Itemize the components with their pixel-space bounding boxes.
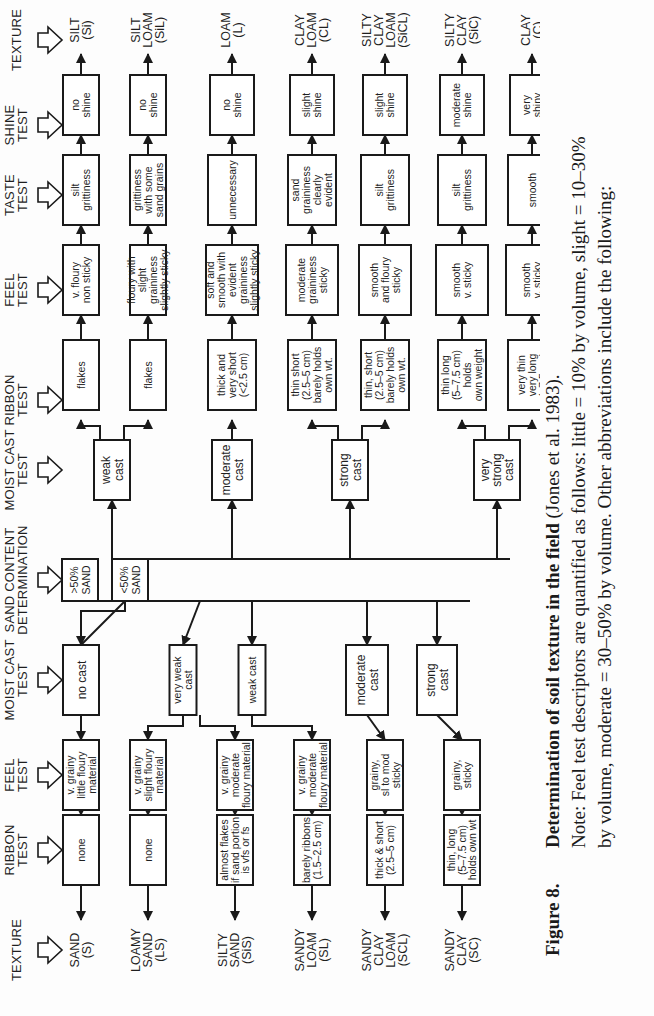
sandy-ribbon-5: thin, long(5–7.5 cm)holds own wt — [444, 815, 480, 885]
fine-ribbon-2: thick andvery short(<2.5 cm) — [208, 340, 256, 410]
fine-ribbon-2-label: thick andvery short(<2.5 cm) — [215, 352, 249, 398]
fine-texture-4: SILTYCLAYLOAM(SiCL) — [360, 12, 410, 47]
column-header-4: SAND CONTENTDETERMINATION — [2, 525, 30, 634]
flow-arrow-icon — [38, 387, 62, 413]
fine-shine-5: moderateshine — [440, 75, 484, 135]
fine-moist-cast-moderate: moderatecast — [212, 440, 252, 500]
fine-feel-0: v. flourynon sticky — [63, 245, 99, 315]
figure-title: Determination of soil texture in the fie… — [542, 523, 563, 848]
column-header-10: TEXTURE — [9, 9, 24, 71]
sandy-moist-cast-very-weak: very weakcast — [170, 645, 197, 715]
sand-lt50-box-label: <50%SAND — [118, 565, 142, 595]
sand-lt50-box: <50%SAND — [112, 559, 148, 601]
fine-moist-cast-very-strong: verystrongcast — [474, 440, 520, 500]
fine-taste-0: siltgrittiness — [63, 155, 99, 225]
flow-arrow-icon — [38, 762, 62, 788]
fine-texture-5: SILTYCLAY(SiC) — [443, 12, 481, 46]
fine-shine-3: slightshine — [290, 75, 334, 135]
connector-line — [183, 601, 200, 645]
fine-taste-6: smooth — [508, 155, 540, 225]
flow-arrow-icon — [38, 27, 62, 53]
sandy-feel-4: grainy,sl to modsticky — [367, 740, 403, 810]
sandy-ribbon-5-label: thin, long(5–7.5 cm)holds own wt — [445, 820, 478, 881]
fine-texture-0: SILT(Si) — [68, 17, 94, 43]
caption-note-line-1: Note: Feel test descriptors are quantifi… — [566, 6, 592, 956]
figure-citation: (Jones et al. 1983). — [542, 374, 563, 523]
column-header-5: MOIST CASTTEST — [2, 429, 30, 510]
fine-ribbon-5-label: thin long(5–7.5 cm)holdsown weight — [439, 349, 484, 402]
fine-texture-3: CLAYLOAM(CL) — [293, 12, 331, 47]
flow-arrow-icon — [38, 457, 62, 483]
connector-line — [252, 715, 312, 740]
fine-shine-2: noshine — [210, 75, 254, 135]
sandy-moist-cast-weak-label: weak cast — [246, 657, 258, 705]
fine-ribbon-6: very thinvery long(>7.5 cm) — [508, 340, 540, 410]
connector-line — [362, 420, 385, 440]
sandy-ribbon-3: barely ribbons(1.5–2.5 cm) — [294, 815, 330, 885]
fine-taste-6-label: smooth — [526, 173, 538, 208]
fine-feel-1: floury withslightgraininessslightly stic… — [125, 245, 170, 315]
fine-taste-4: siltgrittiness — [361, 155, 409, 225]
connector-line — [462, 420, 485, 440]
fine-texture-1: SILTLOAM(SiL) — [129, 12, 167, 47]
fine-ribbon-3: thin short(2.5–5 cm)barely holdsown wt. — [288, 340, 336, 410]
connector-line — [124, 420, 148, 440]
fine-feel-4: smoothand flourysticky — [359, 245, 411, 315]
flowchart-boxes: no castvery weakcastweak castmoderatecas… — [62, 75, 540, 885]
sandy-texture-0: SAND(S) — [68, 933, 94, 968]
fine-moist-cast-weak-label: weakcast — [99, 455, 126, 485]
fine-shine-0: noshine — [63, 75, 99, 135]
column-header-7: FEELTEST — [2, 273, 30, 307]
fine-taste-3: sandgraininessclearlyevident — [288, 155, 336, 225]
fine-shine-4-label: slightshine — [373, 92, 396, 117]
column-headers: TEXTURERIBBONTESTFEELTESTMOIST CASTTESTS… — [2, 9, 62, 981]
fine-taste-2-label: unnecessary — [226, 159, 238, 219]
column-header-1: RIBBONTEST — [2, 824, 30, 875]
sandy-texture-4: SANDYCLAYLOAM(SCL) — [360, 928, 410, 972]
sandy-ribbon-0-label: none — [75, 838, 87, 862]
caption-note-line-2: by volume, moderate = 30–50% by volume. … — [592, 6, 618, 956]
sandy-feel-2: v. grainymoderatefloury material — [217, 740, 253, 810]
soil-texture-flowchart: TEXTURERIBBONTESTFEELTESTMOIST CASTTESTS… — [0, 0, 540, 1016]
connector-line — [81, 420, 100, 440]
fine-ribbon-1: flakes — [130, 340, 166, 410]
fine-feel-2: soft andsmooth withevidentgraininessslig… — [204, 245, 260, 315]
fine-texture-6: CLAY(C) — [519, 13, 540, 45]
sand-gt50-box: >50%SAND — [62, 559, 98, 601]
document-page: TEXTURERIBBONTESTFEELTESTMOIST CASTTESTS… — [0, 0, 654, 1016]
column-header-8: TASTETEST — [2, 174, 30, 216]
fine-feel-3: moderategraininesssticky — [286, 245, 338, 315]
fine-ribbon-0: flakes — [63, 340, 99, 410]
sandy-feel-5: grainy,sticky — [444, 740, 480, 810]
sandy-feel-1: v. grainyslight flourymaterial — [130, 740, 166, 810]
flow-arrow-icon — [38, 277, 62, 303]
fine-feel-1-label: floury withslightgraininessslightly stic… — [125, 249, 170, 311]
connector-line — [312, 420, 338, 440]
sandy-ribbon-3-label: barely ribbons(1.5–2.5 cm) — [300, 817, 323, 883]
flow-arrow-icon — [38, 112, 62, 138]
fine-ribbon-5: thin long(5–7.5 cm)holdsown weight — [438, 340, 486, 410]
fine-feel-5-label: smoothv. sticky — [450, 261, 473, 298]
sandy-ribbon-4-label: thick & short(2.5–5 cm) — [373, 821, 396, 879]
sandy-moist-cast-weak: weak cast — [239, 645, 266, 715]
flow-arrow-icon — [38, 837, 62, 863]
sandy-feel-3: v. grainymoderatefloury material — [294, 740, 330, 810]
sandy-moist-cast-no-cast: no cast — [63, 645, 99, 715]
fine-ribbon-4: thin, short(2.5–5 cm)barely holdsown wt. — [361, 340, 409, 410]
connector-line — [148, 715, 183, 740]
flow-arrow-icon — [38, 667, 62, 693]
fine-taste-1-label: grittinesswith somesand grains — [131, 163, 165, 217]
sandy-feel-1-label: v. grainyslight flourymaterial — [131, 748, 165, 802]
fine-feel-6-label: smoothv. sticky — [520, 261, 540, 298]
sandy-moist-cast-no-cast-label: no cast — [75, 660, 89, 699]
connector-line — [437, 715, 462, 740]
fine-moist-cast-weak: weakcast — [94, 440, 130, 500]
sandy-feel-5-label: grainy,sticky — [450, 760, 473, 791]
fine-shine-4: slightshine — [363, 75, 407, 135]
sandy-ribbon-0: none — [63, 815, 99, 885]
sandy-texture-3: SANDYLOAM(SL) — [293, 928, 331, 972]
sandy-moist-cast-moderate: moderatecast — [346, 645, 388, 715]
fine-feel-0-label: v. flourynon sticky — [69, 256, 92, 303]
fine-shine-1: noshine — [130, 75, 166, 135]
sandy-feel-0: v. grainylittle flourymaterial — [63, 740, 99, 810]
